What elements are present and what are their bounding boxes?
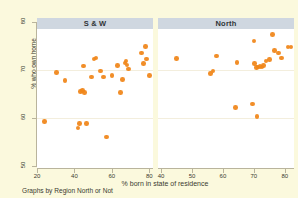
x-tick-label: 60 <box>104 173 120 179</box>
data-point <box>235 60 240 65</box>
data-point <box>63 78 68 83</box>
y-tick-label: 80 <box>20 14 26 28</box>
y-tick-label: 70 <box>20 62 26 76</box>
grid-line <box>158 118 294 119</box>
x-tick-label: 70 <box>246 173 262 179</box>
data-point <box>115 63 120 68</box>
data-point <box>143 44 148 49</box>
data-point <box>261 63 266 68</box>
data-point <box>77 121 82 126</box>
panel-header-label: North <box>158 18 294 29</box>
data-point <box>289 45 294 50</box>
x-tick-label: 50 <box>184 173 200 179</box>
data-point <box>174 56 179 61</box>
data-point <box>84 121 89 126</box>
panel-header-label: S & W <box>37 18 153 29</box>
x-tick-label: 80 <box>277 173 293 179</box>
y-tick-mark <box>32 70 36 71</box>
data-point <box>279 56 284 61</box>
data-point <box>144 57 149 62</box>
data-point <box>252 39 257 44</box>
x-tick-label: 40 <box>66 173 82 179</box>
y-tick-mark <box>32 166 36 167</box>
x-tick-label: 60 <box>215 173 231 179</box>
y-tick-mark <box>32 22 36 23</box>
data-point <box>89 75 94 80</box>
data-point <box>270 32 275 37</box>
plot-area <box>37 29 153 168</box>
data-point <box>233 105 238 110</box>
grid-line <box>37 118 153 119</box>
grid-line <box>158 70 294 71</box>
data-point <box>76 126 81 131</box>
data-point <box>81 64 86 69</box>
data-point <box>42 119 47 124</box>
x-tick-label: 20 <box>29 173 45 179</box>
x-tick-label: 40 <box>153 173 169 179</box>
y-tick-label: 50 <box>20 158 26 172</box>
data-point <box>101 75 106 80</box>
data-point <box>211 69 216 74</box>
x-axis-title: % born in state of residence <box>36 180 294 187</box>
data-point <box>104 135 109 140</box>
plot-area <box>158 29 294 168</box>
data-point <box>147 73 152 78</box>
data-point <box>250 102 255 107</box>
panel-s-w: S & W <box>37 18 153 168</box>
data-point <box>118 90 123 95</box>
data-point <box>276 51 281 56</box>
panel-north: North <box>158 18 294 168</box>
data-point <box>214 54 219 59</box>
figure-caption: Graphs by Region North or Not <box>22 187 113 194</box>
data-point <box>98 69 103 74</box>
data-point <box>54 70 59 75</box>
y-tick-mark <box>32 118 36 119</box>
data-point <box>110 73 115 78</box>
x-axis-line <box>37 168 153 169</box>
data-point <box>139 51 144 56</box>
data-point <box>255 114 260 119</box>
data-point <box>267 57 272 62</box>
y-tick-label: 60 <box>20 110 26 124</box>
x-axis-line <box>158 168 294 169</box>
data-point <box>141 61 146 66</box>
data-point <box>94 56 99 61</box>
data-point <box>82 90 87 95</box>
data-point <box>120 77 125 82</box>
scatter-plot-figure: % who own home 50607080 S & WNorth % bor… <box>0 0 298 198</box>
